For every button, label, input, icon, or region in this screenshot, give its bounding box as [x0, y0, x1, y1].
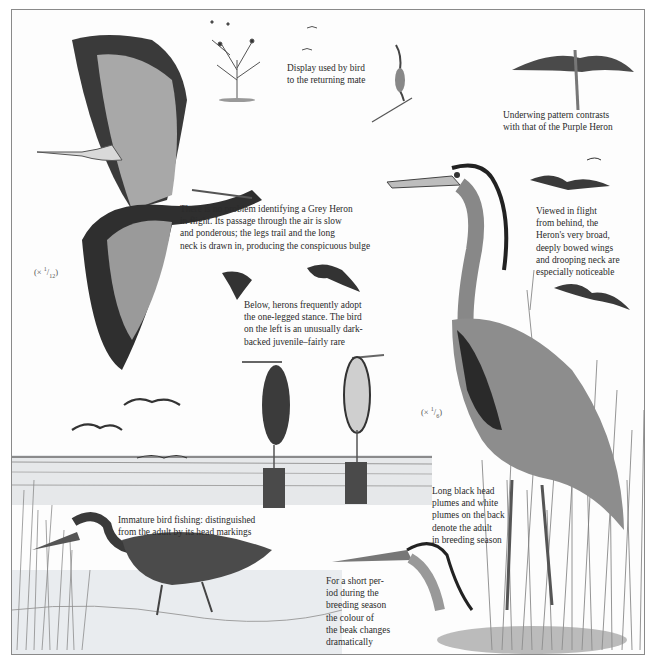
caption-line: in breeding season	[432, 534, 505, 546]
caption-line: Underwing pattern contrasts	[503, 109, 613, 121]
scale-numerator: 1	[431, 406, 434, 412]
caption-line: on the left is an unusually dark-	[244, 323, 363, 335]
displaying-heron-on-branch	[372, 45, 412, 122]
caption-line: from the adult by its head markings	[118, 526, 255, 538]
scale-suffix: )	[55, 267, 58, 277]
caption-line: deeply bowed wings	[536, 242, 620, 254]
caption-line: There is no problem identifying a Grey H…	[180, 203, 370, 215]
caption-one-legged-stance: Below, herons frequently adopt the one-l…	[244, 299, 363, 348]
caption-immature-bird: Immature bird fishing: distinguished fro…	[118, 514, 255, 538]
caption-display: Display used by bird to the returning ma…	[287, 62, 365, 86]
scale-numerator: 1	[44, 266, 47, 272]
caption-line: plumes on the back	[432, 509, 505, 521]
caption-line: dramatically	[326, 636, 390, 648]
caption-line: in flight. Its passage through the air i…	[180, 215, 370, 227]
caption-line: especially noticeable	[536, 266, 620, 278]
caption-line: and ponderous; the legs trail and the lo…	[180, 227, 370, 239]
caption-line: backed juvenile–fairly rare	[244, 336, 363, 348]
caption-line: the one-legged stance. The bird	[244, 311, 363, 323]
scale-label-standing-heron: (× 1/6)	[421, 406, 442, 419]
caption-flight-identification: There is no problem identifying a Grey H…	[180, 203, 370, 252]
caption-line: plumes and white	[432, 497, 505, 509]
caption-line: Heron's very broad,	[536, 229, 620, 241]
caption-line: the beak changes	[326, 624, 390, 636]
caption-line: breeding season	[326, 599, 390, 611]
scale-prefix: (×	[34, 267, 44, 277]
caption-line: For a short per-	[326, 575, 390, 587]
caption-line: Viewed in flight	[536, 205, 620, 217]
caption-line: with that of the Purple Heron	[503, 121, 613, 133]
caption-line: to the returning mate	[287, 74, 365, 86]
scale-label-flying-heron: (× 1/12)	[34, 266, 58, 279]
scale-prefix: (×	[421, 407, 431, 417]
caption-line: from behind, the	[536, 217, 620, 229]
scale-suffix: )	[439, 407, 442, 417]
distant-flock	[72, 399, 187, 458]
caption-line: Long black head	[432, 485, 505, 497]
illustration-plate: Display used by bird to the returning ma…	[11, 9, 645, 655]
underwing-flight-view	[512, 50, 634, 110]
caption-underwing: Underwing pattern contrasts with that of…	[503, 109, 613, 133]
caption-line: neck is drawn in, producing the conspicu…	[180, 240, 370, 252]
caption-breeding-plumes: Long black head plumes and white plumes …	[432, 485, 505, 546]
small-flying-herons	[222, 264, 360, 300]
caption-line: the colour of	[326, 612, 390, 624]
caption-line: Below, herons frequently adopt	[244, 299, 363, 311]
caption-viewed-from-behind: Viewed in flight from behind, the Heron'…	[536, 205, 620, 278]
caption-beak-colour: For a short per- iod during the breeding…	[326, 575, 390, 648]
caption-line: denote the adult	[432, 522, 505, 534]
caption-line: iod during the	[326, 587, 390, 599]
caption-line: and drooping neck are	[536, 254, 620, 266]
caption-line: Display used by bird	[287, 62, 365, 74]
caption-line: Immature bird fishing: distinguished	[118, 514, 255, 526]
